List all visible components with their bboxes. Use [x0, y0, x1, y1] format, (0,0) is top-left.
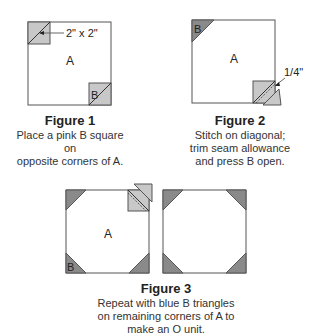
- figure-3-caption: Figure 3 Repeat with blue B triangles on…: [76, 281, 256, 336]
- caption-line: and press B open.: [170, 155, 310, 168]
- caption-line: Repeat with blue B triangles: [76, 297, 256, 310]
- caption-line: make an O unit.: [76, 323, 256, 336]
- block-b-label: B: [194, 23, 201, 35]
- seam-allowance-label: 1/4": [284, 66, 303, 78]
- figure-3-left-drawing: A B: [66, 184, 152, 273]
- figure-2-caption: Figure 2 Stitch on diagonal; trim seam a…: [170, 113, 310, 168]
- dimension-label: 2" x 2": [66, 27, 98, 39]
- figure-1-title: Figure 1: [10, 113, 130, 129]
- caption-line: Stitch on diagonal;: [170, 129, 310, 142]
- caption-line: Place a pink B square on: [10, 129, 130, 155]
- figure-3-right-drawing: [163, 190, 246, 273]
- caption-line: opposite corners of A.: [10, 155, 130, 168]
- block-a-label: A: [104, 227, 112, 241]
- block-a-label: A: [66, 54, 74, 68]
- caption-line: on remaining corners of A to: [76, 310, 256, 323]
- figure-1-caption: Figure 1 Place a pink B square on opposi…: [10, 113, 130, 168]
- figure-3-title: Figure 3: [76, 281, 256, 297]
- figure-2-title: Figure 2: [170, 113, 310, 129]
- figure-2-drawing: 1/4" A B: [192, 20, 303, 105]
- block-a-label: A: [230, 52, 238, 66]
- block-b-label: B: [67, 261, 74, 273]
- block-b-label: B: [91, 89, 98, 101]
- caption-line: trim seam allowance: [170, 142, 310, 155]
- figure-1-drawing: 2" x 2" A B: [28, 22, 111, 105]
